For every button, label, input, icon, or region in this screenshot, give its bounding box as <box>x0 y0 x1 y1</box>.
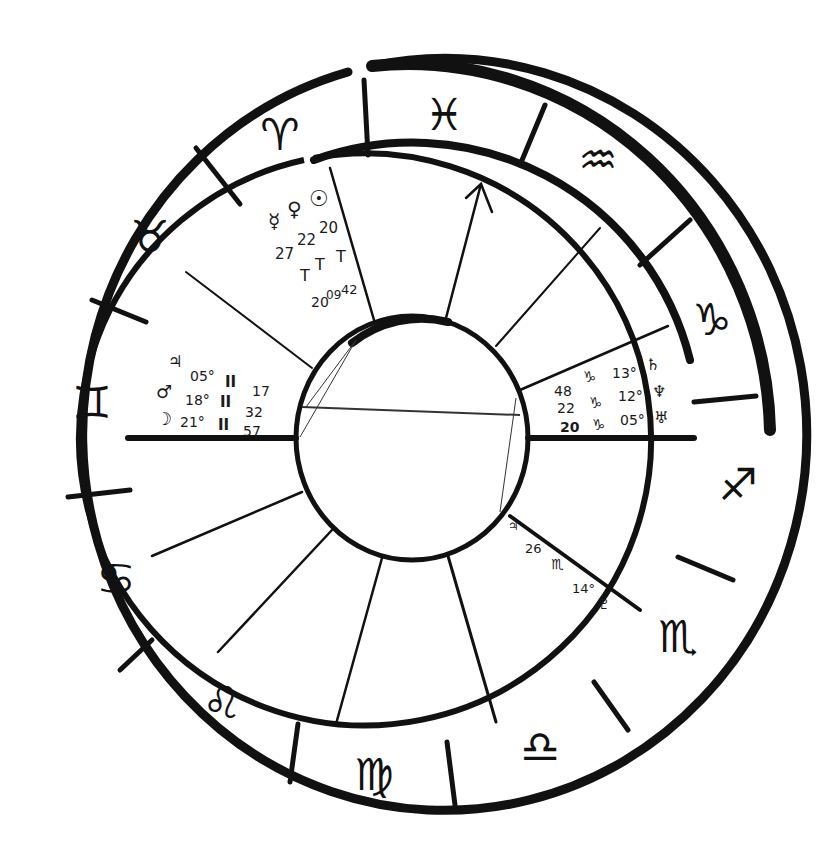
neptune-minutes: 22 <box>557 400 575 416</box>
mercury-sign: T <box>299 266 310 285</box>
capricorn-sign-2: ♑ <box>589 394 602 412</box>
sun-sign: T <box>335 247 346 266</box>
sign-cancer: ♋ <box>96 553 135 604</box>
sign-scorpio: ♏ <box>658 611 697 662</box>
mercury-icon: ☿ <box>268 209 280 233</box>
outer-ring <box>83 58 807 810</box>
moon-sign: II <box>218 416 229 434</box>
pluto-minutes: 26 <box>525 541 542 556</box>
jupiter-minutes: 17 <box>252 383 270 399</box>
aspect-lines <box>300 340 520 512</box>
venus-degree: 22 <box>297 231 316 249</box>
jupiter-sign: II <box>225 373 236 391</box>
sun-degree: 20 <box>319 219 338 237</box>
uranus-degree: 05° <box>620 412 645 428</box>
venus-sign: T <box>314 255 325 274</box>
natal-chart-wheel: ♓ ♒ ♑ ♐ ♏ ♎ ♍ ♌ ♋ ♊ ♉ ♈ ☿ ♀ ☉ 27 22 20 T… <box>0 0 823 866</box>
sun-minutes: 42 <box>341 282 358 297</box>
hub-thick-arc <box>352 319 448 343</box>
sign-gemini: ♊ <box>72 377 111 428</box>
moon-minutes: 57 <box>243 423 261 439</box>
house-cusps <box>128 168 694 724</box>
jupiter-icon: ♃ <box>168 352 182 371</box>
saturn-icon: ♄ <box>646 355 660 374</box>
mars-degree: 18° <box>185 392 210 408</box>
sign-virgo: ♍ <box>354 749 393 800</box>
moon-degree: 21° <box>180 414 205 430</box>
cusp-marker-icon: ♃ <box>508 519 519 533</box>
sign-aries: ♈ <box>260 109 299 160</box>
sign-leo: ♌ <box>202 677 241 728</box>
sign-sagittarius: ♐ <box>718 459 757 510</box>
zodiac-signs: ♓ ♒ ♑ ♐ ♏ ♎ ♍ ♌ ♋ ♊ ♉ ♈ <box>72 89 757 800</box>
inner-hub-circle <box>296 316 528 560</box>
upper-planet-group: ☿ ♀ ☉ 27 22 20 T T T 20 09 42 <box>268 186 358 310</box>
jupiter-degree: 05° <box>190 368 215 384</box>
left-planet-group: ♃ ♂ ☽ 05° 18° 21° II II II 17 32 57 <box>156 352 270 439</box>
saturn-minutes: 48 <box>554 383 572 399</box>
mars-sign: II <box>220 393 231 411</box>
capricorn-sign-1: ♑ <box>583 368 596 386</box>
sign-capricorn: ♑ <box>692 294 731 345</box>
moon-icon: ☽ <box>156 408 172 429</box>
mercury-degree: 27 <box>275 245 294 263</box>
capricorn-sign-3: ♑ <box>592 416 605 434</box>
pluto-icon: ♇ <box>598 596 611 612</box>
midheaven-arrow <box>446 184 492 318</box>
sign-libra: ♎ <box>520 721 559 772</box>
pluto-degree: 14° <box>572 581 595 596</box>
neptune-degree: 12° <box>618 388 643 404</box>
mars-icon: ♂ <box>156 381 172 402</box>
sign-pisces: ♓ <box>424 89 463 140</box>
pluto-sign: ♏ <box>551 556 564 572</box>
uranus-minutes: 20 <box>560 419 580 435</box>
neptune-icon: ♆ <box>652 382 666 401</box>
uranus-icon: ♅ <box>654 408 668 427</box>
sun-icon: ☉ <box>309 186 329 211</box>
venus-icon: ♀ <box>287 197 302 221</box>
sign-aquarius: ♒ <box>578 134 617 185</box>
saturn-degree: 13° <box>612 365 637 381</box>
lower-right-planet-group: ♃ 26 ♏ 14° ♇ <box>508 519 611 612</box>
sign-taurus: ♉ <box>130 211 169 262</box>
mars-minutes: 32 <box>245 404 263 420</box>
venus-minutes: 09 <box>326 288 341 302</box>
